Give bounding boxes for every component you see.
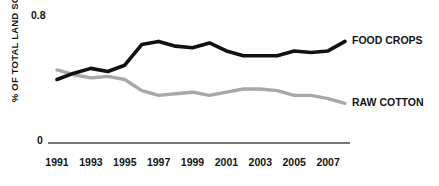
x-axis-tick-2003: 2003 (249, 157, 272, 168)
series-label-food-crops: FOOD CROPS (352, 35, 423, 46)
x-axis-tick-2005: 2005 (283, 157, 306, 168)
series-line-raw-cotton (57, 70, 345, 103)
series-line-food-crops (57, 41, 345, 79)
x-axis-tick-1997: 1997 (147, 157, 170, 168)
chart-container: % OF TOTAL LAND SOWN 0.8 0 FOOD CROPS RA… (0, 0, 439, 186)
x-axis-tick-2001: 2001 (215, 157, 238, 168)
x-axis-tick-1991: 1991 (45, 157, 68, 168)
x-axis-tick-1993: 1993 (79, 157, 102, 168)
series-label-raw-cotton: RAW COTTON (352, 97, 424, 108)
x-axis-tick-1995: 1995 (113, 157, 136, 168)
x-axis-tick-2007: 2007 (316, 157, 339, 168)
x-axis-tick-1999: 1999 (181, 157, 204, 168)
